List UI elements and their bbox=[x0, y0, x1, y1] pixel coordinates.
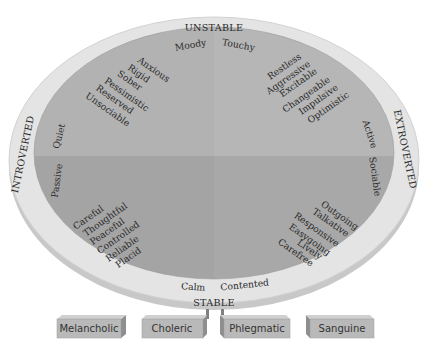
temperament-label: Choleric bbox=[152, 323, 193, 334]
temperament-label: Phlegmatic bbox=[229, 323, 285, 334]
axis-label-stable: STABLE bbox=[193, 297, 235, 308]
temperament-box-phlegmatic: Phlegmatic bbox=[220, 315, 290, 338]
temperament-label: Sanguine bbox=[319, 323, 366, 334]
temperament-box-sanguine: Sanguine bbox=[306, 315, 374, 338]
temperament-box-melancholic: Melancholic bbox=[57, 315, 126, 338]
temperament-box-choleric: Choleric bbox=[142, 315, 207, 338]
axis-label-unstable: UNSTABLE bbox=[185, 22, 244, 33]
personality-circle-diagram: UNSTABLE STABLE INTROVERTED EXTROVERTED … bbox=[0, 0, 428, 354]
temperament-label: Melancholic bbox=[59, 323, 118, 334]
label-calm: Calm bbox=[181, 280, 206, 292]
